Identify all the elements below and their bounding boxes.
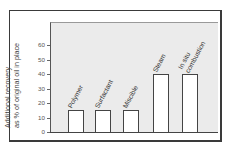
y-tick-label: 60 xyxy=(31,41,45,48)
bar-in-situ-combustion xyxy=(182,74,198,132)
y-tick-mark xyxy=(47,118,50,119)
y-tick-mark xyxy=(47,60,50,61)
bar-polymer xyxy=(68,110,84,132)
bar-surfactant xyxy=(95,110,111,132)
y-tick-label: 10 xyxy=(31,114,45,121)
bar-miscible xyxy=(123,110,139,132)
y-tick-label: 50 xyxy=(31,56,45,63)
y-axis-label: Additional recovery as % of original oil… xyxy=(4,43,21,128)
bar-steam xyxy=(153,74,169,132)
y-tick-mark xyxy=(47,89,50,90)
y-tick-mark xyxy=(47,103,50,104)
y-tick-label: 30 xyxy=(31,85,45,92)
y-tick-mark xyxy=(47,74,50,75)
x-axis-line xyxy=(50,132,218,133)
y-tick-label: 40 xyxy=(31,70,45,77)
y-tick-label: 20 xyxy=(31,99,45,106)
y-tick-label: 0 xyxy=(31,128,45,135)
y-tick-mark xyxy=(47,132,50,133)
y-axis-label-line-2: as % of original oil in place xyxy=(13,43,22,128)
y-tick-mark xyxy=(47,45,50,46)
